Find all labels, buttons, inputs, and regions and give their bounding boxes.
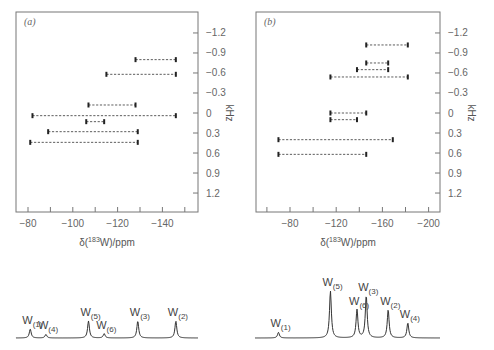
cross-peak (137, 129, 139, 134)
cross-peak (135, 102, 137, 107)
panel-label: (b) (264, 16, 276, 28)
peak-label: W(3) (358, 281, 379, 296)
cross-peak (329, 74, 331, 79)
y-tick-label: −0.6 (448, 67, 468, 78)
peak-label: W(3) (130, 306, 151, 321)
x-tick-label: −200 (417, 218, 440, 229)
y-tick-label: −0.6 (206, 67, 226, 78)
cross-peak (85, 119, 87, 124)
cross-peak (387, 67, 389, 72)
y-tick-label: 0 (206, 108, 212, 119)
y-tick-label: −1.2 (448, 27, 468, 38)
cross-peak (175, 72, 177, 77)
x-tick-label: −120 (325, 218, 348, 229)
y-tick-label: 0.3 (448, 128, 462, 139)
peak-label: W(4) (400, 308, 421, 323)
cross-peak (175, 113, 177, 118)
cross-peak (175, 57, 177, 62)
peak-label: W(5) (322, 276, 343, 291)
spectrum-b: W(1)W(5)W(6)W(3)W(2)W(4) (255, 276, 440, 338)
cross-peak (365, 42, 367, 47)
x-tick-label: −80 (282, 218, 299, 229)
cross-peak (365, 111, 367, 116)
x-tick-label: −120 (106, 218, 129, 229)
cross-peak (29, 140, 31, 145)
y-tick-label: 1.2 (448, 188, 462, 199)
cross-peak (277, 152, 279, 157)
plot-frame (256, 12, 440, 212)
y-tick-label: 0.9 (448, 168, 462, 179)
cross-peak (356, 67, 358, 72)
cross-peak (365, 60, 367, 65)
peak-label: W(2) (168, 306, 189, 321)
cross-peak (387, 60, 389, 65)
y-tick-label: −1.2 (206, 27, 226, 38)
y-tick-label: 1.2 (206, 188, 220, 199)
panel-label: (a) (24, 16, 36, 28)
cross-peak (356, 117, 358, 122)
x-tick-label: −100 (62, 218, 85, 229)
y-tick-label: 0.9 (206, 168, 220, 179)
y-axis-title: kHz (466, 104, 477, 121)
peak-label: W(1) (270, 317, 291, 332)
cross-peak (47, 129, 49, 134)
cross-peak (103, 119, 105, 124)
y-tick-label: −0.3 (206, 87, 226, 98)
cross-peak (392, 137, 394, 142)
cross-peak (135, 57, 137, 62)
cross-peak (277, 137, 279, 142)
y-tick-label: 0.3 (206, 128, 220, 139)
plot-frame (16, 12, 198, 212)
y-tick-label: 0.6 (448, 148, 462, 159)
panel-a: (a)−80−100−120−140−1.2−0.9−0.6−0.300.30.… (16, 12, 235, 248)
y-tick-label: −0.9 (448, 47, 468, 58)
x-tick-label: −140 (151, 218, 174, 229)
cross-peak (365, 152, 367, 157)
y-axis-title: kHz (224, 104, 235, 121)
peak-label: W(2) (380, 295, 401, 310)
cross-peak (105, 72, 107, 77)
y-tick-label: −0.9 (206, 47, 226, 58)
cross-peak (87, 102, 89, 107)
x-axis-title: δ(183W)/ppm (320, 236, 376, 248)
y-tick-label: 0 (448, 108, 454, 119)
y-tick-label: 0.6 (206, 148, 220, 159)
peak-label: W(4) (38, 319, 59, 334)
cross-peak (407, 42, 409, 47)
cross-peak (137, 140, 139, 145)
peak-label: W(6) (96, 319, 117, 334)
x-axis-title: δ(183W)/ppm (79, 236, 135, 248)
figure: (a)−80−100−120−140−1.2−0.9−0.6−0.300.30.… (0, 0, 494, 350)
spectrum-a: W(1)W(4)W(5)W(6)W(3)W(2) (16, 306, 198, 338)
x-tick-label: −160 (371, 218, 394, 229)
x-tick-label: −80 (20, 218, 37, 229)
cross-peak (31, 113, 33, 118)
cross-peak (407, 74, 409, 79)
y-tick-label: −0.3 (448, 87, 468, 98)
cross-peak (329, 117, 331, 122)
cross-peak (329, 111, 331, 116)
panel-b: (b)−80−120−160−200−1.2−0.9−0.6−0.300.30.… (256, 12, 477, 248)
